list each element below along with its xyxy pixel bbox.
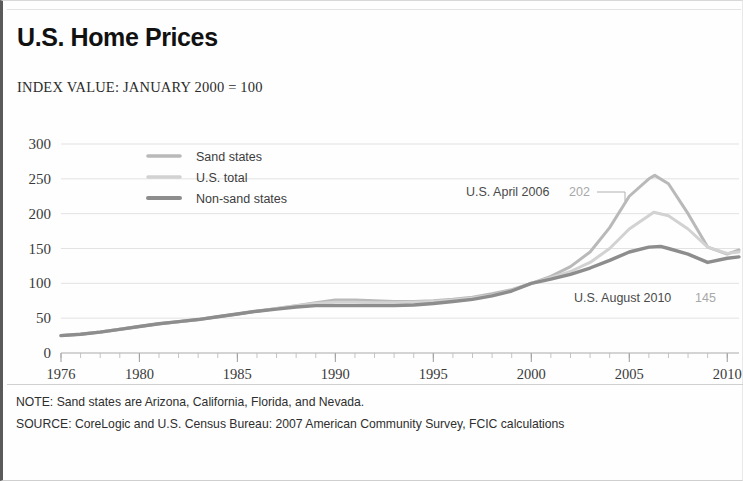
notes-divider — [7, 384, 743, 385]
x-tick-label: 1976 — [47, 366, 76, 382]
note-text: NOTE: Sand states are Arizona, Californi… — [16, 391, 731, 413]
chart-figure: U.S. Home Prices INDEX VALUE: JANUARY 20… — [0, 0, 743, 481]
source-text: SOURCE: CoreLogic and U.S. Census Bureau… — [16, 413, 731, 435]
y-tick-label: 50 — [36, 310, 51, 326]
notes-block: NOTE: Sand states are Arizona, Californi… — [16, 391, 731, 435]
x-tick-label: 1995 — [419, 366, 448, 382]
x-axis-tick-labels: 19761980198519901995200020052010 — [47, 366, 742, 382]
y-axis-tick-labels: 050100150200250300 — [29, 136, 52, 361]
y-tick-label: 150 — [29, 241, 52, 257]
annotation-value-2010: 145 — [695, 291, 716, 305]
y-tick-label: 0 — [44, 345, 52, 361]
annotation-leader-2006 — [597, 192, 625, 201]
series-line-u-s-total — [61, 212, 739, 335]
chart-legend: Sand statesU.S. totalNon-sand states — [148, 150, 287, 206]
x-tick-label: 2005 — [615, 366, 644, 382]
y-tick-label: 100 — [29, 275, 52, 291]
x-axis-minor-ticks — [61, 353, 727, 358]
annotation-label-2010: U.S. August 2010 — [574, 291, 671, 305]
x-tick-label: 1985 — [223, 366, 252, 382]
legend-label: U.S. total — [196, 171, 247, 185]
y-tick-label: 200 — [29, 206, 52, 222]
x-tick-label: 2010 — [713, 366, 742, 382]
legend-label: Non-sand states — [196, 192, 287, 206]
x-tick-label: 1980 — [125, 366, 154, 382]
x-tick-label: 1990 — [321, 366, 350, 382]
chart-annotations: U.S. April 2006202U.S. August 2010145 — [466, 185, 716, 305]
x-tick-label: 2000 — [517, 366, 546, 382]
y-tick-label: 250 — [29, 171, 52, 187]
annotation-label-2006: U.S. April 2006 — [466, 185, 549, 199]
y-tick-label: 300 — [29, 136, 52, 152]
annotation-value-2006: 202 — [569, 185, 590, 199]
legend-label: Sand states — [196, 150, 262, 164]
